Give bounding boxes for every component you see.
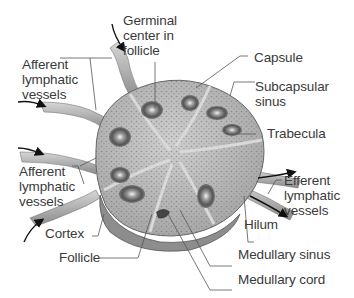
- label-cortex: Cortex: [45, 226, 84, 241]
- label-subcapsular-sinus: Subcapsular sinus: [255, 79, 329, 109]
- label-medullary-cord: Medullary cord: [238, 272, 325, 287]
- label-efferent-vessels: Efferent lymphatic vessels: [284, 173, 340, 218]
- label-afferent-vessels-top: Afferent lymphatic vessels: [22, 57, 78, 102]
- lymph-node-diagram: Germinal center in follicle Afferent lym…: [0, 0, 354, 298]
- label-capsule: Capsule: [254, 50, 303, 65]
- label-follicle: Follicle: [59, 250, 100, 265]
- label-hilum: Hilum: [244, 217, 278, 232]
- label-germinal-center: Germinal center in follicle: [123, 13, 177, 58]
- label-medullary-sinus: Medullary sinus: [238, 247, 330, 262]
- lymph-node-body: [96, 80, 264, 251]
- label-trabecula: Trabecula: [267, 126, 326, 141]
- label-afferent-vessels-bottom: Afferent lymphatic vessels: [19, 164, 75, 209]
